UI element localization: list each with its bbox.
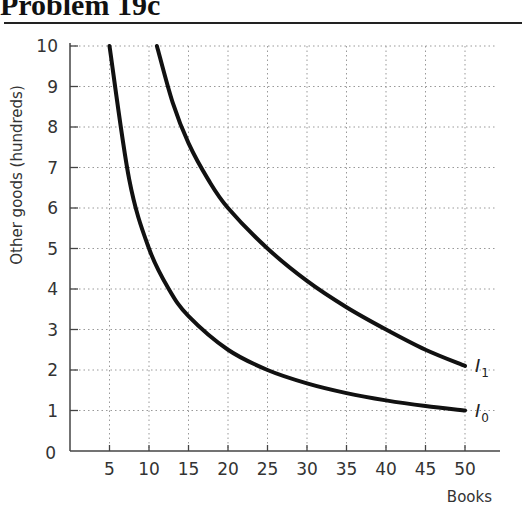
x-tick-label: 50 bbox=[454, 459, 476, 479]
y-tick-label: 3 bbox=[47, 320, 58, 340]
y-tick-label: 9 bbox=[47, 77, 58, 97]
x-tick-label: 30 bbox=[296, 459, 318, 479]
x-tick-label: 15 bbox=[178, 459, 200, 479]
y-axis-label: Other goods (hundreds) bbox=[8, 85, 26, 265]
axes bbox=[70, 43, 500, 451]
y-tick-label: 2 bbox=[47, 360, 58, 380]
y-tick-label: 6 bbox=[47, 198, 58, 218]
curve-label-i1: I1 bbox=[475, 355, 489, 380]
x-tick-label: 40 bbox=[375, 459, 397, 479]
y-tick-label: 10 bbox=[36, 36, 58, 56]
y-tick-label: 5 bbox=[47, 239, 58, 259]
x-tick-label: 25 bbox=[257, 459, 279, 479]
y-tick-label: 0 bbox=[45, 443, 56, 463]
curve-i0 bbox=[110, 46, 466, 411]
curves: I0I1 bbox=[110, 46, 489, 425]
tick-labels: 0123456789105101520253035404550 bbox=[36, 36, 475, 479]
x-tick-label: 10 bbox=[138, 459, 160, 479]
x-axis-label: Books bbox=[447, 488, 492, 506]
y-tick-label: 8 bbox=[47, 117, 58, 137]
curve-i1 bbox=[157, 46, 465, 366]
x-tick-label: 35 bbox=[336, 459, 358, 479]
y-tick-label: 4 bbox=[47, 279, 58, 299]
curve-label-i0: I0 bbox=[475, 400, 489, 425]
indifference-chart: 0123456789105101520253035404550 I0I1 Oth… bbox=[0, 0, 522, 509]
x-tick-label: 45 bbox=[415, 459, 437, 479]
x-tick-label: 5 bbox=[104, 459, 115, 479]
y-tick-label: 7 bbox=[47, 158, 58, 178]
grid-lines bbox=[70, 46, 495, 451]
x-tick-label: 20 bbox=[217, 459, 239, 479]
y-tick-label: 1 bbox=[47, 401, 58, 421]
